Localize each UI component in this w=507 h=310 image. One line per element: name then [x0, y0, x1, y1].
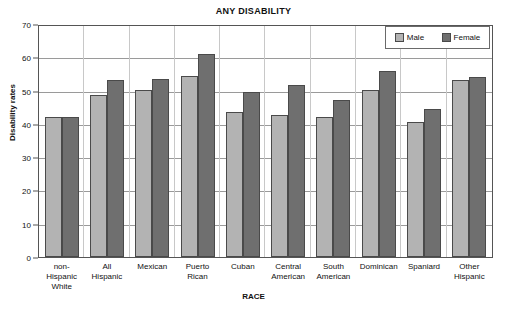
x-axis-tick-label-line: Mexican	[131, 262, 174, 272]
chart-container: ANY DISABILITY 010203040506070 Disabilit…	[0, 0, 507, 310]
x-axis-tick-label: Dominican	[356, 262, 401, 292]
x-axis-tick-label-line: Central	[266, 262, 309, 272]
x-axis-tick-label-line: South	[312, 262, 355, 272]
x-axis-tick-label-line: White	[40, 282, 83, 292]
chart-title: ANY DISABILITY	[0, 6, 507, 16]
bar-female[interactable]	[424, 109, 441, 258]
bar-male[interactable]	[90, 95, 107, 257]
legend-swatch-icon	[395, 33, 404, 42]
x-axis-tick-label: Spaniard	[401, 262, 446, 292]
x-axis-tick-label-line: American	[266, 272, 309, 282]
bar-female[interactable]	[333, 100, 350, 257]
bar-male[interactable]	[316, 117, 333, 257]
x-axis: non-HispanicWhiteAllHispanicMexicanPuert…	[39, 262, 492, 292]
bar-female[interactable]	[469, 77, 486, 257]
legend-swatch-icon	[442, 33, 451, 42]
x-axis-tick-label: OtherHispanic	[447, 262, 492, 292]
legend-item-female[interactable]: Female	[442, 33, 481, 42]
x-axis-tick-label-line: Spaniard	[402, 262, 445, 272]
bar-group	[220, 26, 265, 257]
bar-male[interactable]	[135, 90, 152, 257]
bar-male[interactable]	[271, 115, 288, 257]
bar-female[interactable]	[107, 80, 124, 257]
y-axis-tick-label: 20	[22, 187, 31, 196]
bar-female[interactable]	[62, 117, 79, 257]
y-axis-tick-label: 30	[22, 154, 31, 163]
x-axis-tick-label-line: Hispanic	[40, 272, 83, 282]
bar-male[interactable]	[362, 90, 379, 257]
x-axis-tick-label-line: Cuban	[221, 262, 264, 272]
legend-item-male[interactable]: Male	[395, 33, 424, 42]
legend-label: Male	[407, 33, 424, 42]
bar-female[interactable]	[379, 71, 396, 257]
x-axis-tick-label-line: Puerto	[176, 262, 219, 272]
chart-legend: MaleFemale	[385, 26, 490, 49]
x-axis-tick-label-line: Other	[448, 262, 491, 272]
bar-group	[175, 26, 220, 257]
x-axis-tick-label: Mexican	[130, 262, 175, 292]
y-axis: 010203040506070	[0, 25, 38, 258]
y-axis-tick-label: 70	[22, 21, 31, 30]
x-axis-tick-label-line: American	[312, 272, 355, 282]
bar-female[interactable]	[288, 85, 305, 257]
y-axis-tick-label: 0	[27, 254, 31, 263]
x-axis-tick-label: PuertoRican	[175, 262, 220, 292]
bar-male[interactable]	[181, 76, 198, 258]
x-axis-tick-label: AllHispanic	[84, 262, 129, 292]
bar-female[interactable]	[198, 54, 215, 257]
y-axis-tick-label: 40	[22, 120, 31, 129]
x-axis-tick-label: CentralAmerican	[265, 262, 310, 292]
bar-group	[84, 26, 129, 257]
x-axis-tick-label-line: All	[85, 262, 128, 272]
legend-label: Female	[454, 33, 481, 42]
y-axis-tick-label: 50	[22, 87, 31, 96]
bar-male[interactable]	[226, 112, 243, 257]
x-axis-title: RACE	[0, 292, 507, 301]
bar-group	[401, 26, 446, 257]
bar-male[interactable]	[452, 80, 469, 257]
bar-group	[130, 26, 175, 257]
y-axis-tick-label: 60	[22, 54, 31, 63]
bar-male[interactable]	[407, 122, 424, 257]
bar-group	[265, 26, 310, 257]
x-axis-tick-label: SouthAmerican	[311, 262, 356, 292]
bar-group	[39, 26, 84, 257]
y-axis-title: Disability rates	[8, 53, 17, 173]
bar-male[interactable]	[45, 117, 62, 257]
x-axis-tick-label: Cuban	[220, 262, 265, 292]
x-axis-tick-label-line: Hispanic	[85, 272, 128, 282]
bar-group	[447, 26, 492, 257]
x-axis-tick-label: non-HispanicWhite	[39, 262, 84, 292]
x-axis-tick-label-line: Dominican	[357, 262, 400, 272]
x-axis-tick-label-line: Rican	[176, 272, 219, 282]
y-axis-tick-label: 10	[22, 220, 31, 229]
x-axis-tick-label-line: non-	[40, 262, 83, 272]
bar-group	[356, 26, 401, 257]
bars-layer	[39, 26, 492, 257]
bar-female[interactable]	[243, 92, 260, 257]
bar-group	[311, 26, 356, 257]
bar-female[interactable]	[152, 79, 169, 257]
x-axis-tick-label-line: Hispanic	[448, 272, 491, 282]
